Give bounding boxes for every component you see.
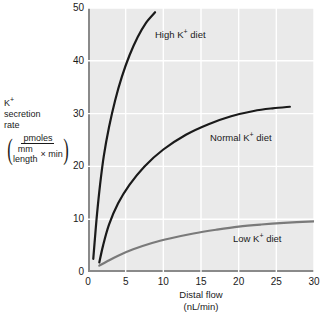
y-tick-label: 10	[58, 214, 84, 224]
plot-wrapper: High K+ dietNormal K+ dietLow K+ diet	[88, 8, 314, 272]
y-axis-ticks: 01020304050	[58, 8, 84, 272]
x-axis-label-units: (nL/min)	[88, 301, 314, 313]
x-axis-label: Distal flow (nL/min)	[88, 289, 314, 313]
units-denominator-top: mm	[13, 144, 38, 154]
series-curve	[93, 12, 155, 259]
x-tick-label: 0	[76, 276, 100, 287]
y-tick-label: 30	[58, 109, 84, 119]
series-label-prefix: High K	[155, 29, 184, 40]
y-tick-label: 20	[58, 161, 84, 171]
y-tick-label: 50	[58, 3, 84, 13]
units-denominator: mm length × min	[13, 143, 63, 164]
x-tick-label: 25	[264, 276, 288, 287]
units-denominator-stack: mm length	[13, 144, 38, 164]
x-tick-label: 15	[189, 276, 213, 287]
x-tick-label: 10	[151, 276, 175, 287]
x-tick-label: 20	[227, 276, 251, 287]
series-label-suffix: diet	[188, 29, 206, 40]
series-label-suffix: diet	[264, 233, 282, 244]
left-parenthesis: (	[7, 134, 13, 164]
x-tick-label: 30	[302, 276, 325, 287]
k-secretion-flow-chart: K+ secretion rate ( pmoles mm length × m…	[0, 0, 325, 318]
series-label-suffix: diet	[254, 132, 272, 143]
units-denominator-bottom: length	[13, 154, 38, 164]
series-curve	[99, 221, 314, 265]
x-axis-ticks: 051015202530	[88, 276, 314, 290]
units-fraction-body: pmoles mm length × min	[13, 133, 63, 164]
series-label: Normal K+ diet	[210, 133, 272, 143]
series-label-prefix: Normal K	[210, 132, 250, 143]
units-numerator: pmoles	[21, 133, 54, 144]
x-tick-label: 5	[114, 276, 138, 287]
x-axis-label-text: Distal flow	[88, 289, 314, 301]
series-label: High K+ diet	[155, 30, 206, 40]
series-label: Low K+ diet	[233, 234, 281, 244]
y-axis-label-superscript: +	[10, 96, 14, 103]
y-tick-label: 40	[58, 56, 84, 66]
data-curves	[93, 12, 314, 265]
series-label-prefix: Low K	[233, 233, 259, 244]
